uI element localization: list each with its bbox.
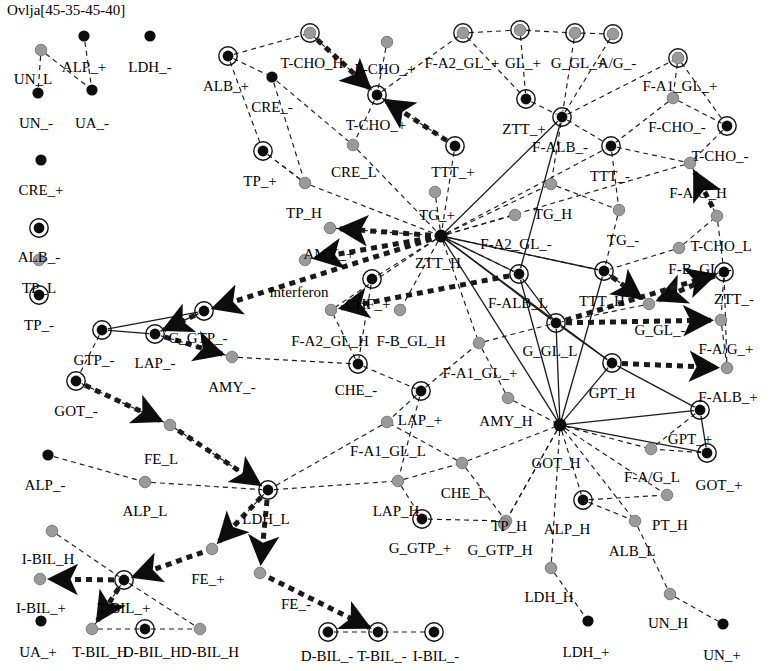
graph-node[interactable]	[425, 623, 443, 641]
graph-node[interactable]	[35, 44, 47, 56]
node-label: T-CHO_H	[281, 56, 344, 71]
edge-dashed	[54, 457, 139, 481]
graph-node[interactable]	[602, 137, 620, 155]
graph-node[interactable]	[645, 443, 657, 455]
graph-node[interactable]	[347, 139, 359, 151]
node-label: F-CHO_+	[355, 62, 416, 77]
node-label: FE_+	[191, 572, 224, 587]
graph-node[interactable]	[301, 24, 319, 42]
node-label: G_GTP_-	[168, 331, 227, 346]
node-label: LDH_L	[242, 512, 290, 527]
graph-node[interactable]	[553, 108, 571, 126]
graph-node[interactable]	[669, 49, 687, 67]
graph-node[interactable]	[604, 25, 622, 43]
graph-node[interactable]	[254, 567, 266, 579]
graph-node[interactable]	[629, 515, 641, 527]
graph-node[interactable]	[381, 36, 393, 48]
graph-node[interactable]	[46, 525, 58, 537]
node-label: I-BIL_+	[16, 601, 66, 616]
graph-node[interactable]	[219, 47, 237, 65]
graph-node[interactable]	[603, 354, 621, 372]
graph-node[interactable]	[67, 372, 85, 390]
edge-dashed	[589, 495, 661, 499]
graph-node[interactable]	[502, 392, 514, 404]
graph-node[interactable]	[194, 623, 206, 635]
graph-node[interactable]	[115, 571, 133, 589]
graph-node[interactable]	[164, 419, 176, 431]
node-label: I-BIL_H	[22, 552, 75, 567]
node-label: D-BIL_H	[181, 645, 239, 660]
graph-node[interactable]	[349, 355, 367, 373]
node-label: A/G_-	[598, 56, 636, 71]
graph-node[interactable]	[554, 419, 567, 432]
graph-node[interactable]	[32, 87, 43, 98]
graph-node[interactable]	[456, 457, 468, 469]
graph-node[interactable]	[613, 204, 625, 216]
graph-node[interactable]	[412, 382, 430, 400]
node-label: G_GTP_H	[467, 543, 532, 558]
graph-node[interactable]	[394, 304, 406, 316]
node-label: UN_-	[19, 116, 53, 131]
graph-node[interactable]	[509, 209, 521, 221]
graph-node[interactable]	[299, 177, 311, 189]
graph-node[interactable]	[673, 242, 685, 254]
graph-node[interactable]	[363, 270, 381, 288]
node-label: UN_+	[703, 648, 741, 663]
graph-node[interactable]	[473, 337, 485, 349]
graph-node[interactable]	[715, 314, 727, 326]
edge-dashed	[238, 357, 352, 363]
graph-node[interactable]	[139, 476, 151, 488]
node-label: AMY_+	[304, 247, 355, 262]
graph-node[interactable]	[34, 573, 46, 585]
graph-node[interactable]	[206, 543, 218, 555]
node-label: F-B_GL_-	[668, 262, 731, 277]
graph-node[interactable]	[510, 265, 528, 283]
graph-node[interactable]	[664, 588, 676, 600]
node-label: TP_L	[22, 281, 56, 296]
graph-node[interactable]	[392, 475, 404, 487]
graph-node[interactable]	[35, 154, 46, 165]
node-label: TP_H	[491, 519, 527, 534]
graph-node[interactable]	[86, 623, 98, 635]
node-label: F-CHO_-	[648, 120, 706, 135]
graph-node[interactable]	[78, 30, 89, 41]
graph-node[interactable]	[324, 222, 336, 234]
node-label: F-A/G_+	[698, 342, 753, 357]
graph-node[interactable]	[195, 302, 213, 320]
edge-dashed	[551, 431, 559, 562]
graph-node[interactable]	[711, 210, 723, 222]
graph-node[interactable]	[545, 562, 557, 574]
graph-node[interactable]	[717, 618, 728, 629]
graph-node[interactable]	[266, 71, 277, 82]
graph-node[interactable]	[325, 304, 337, 316]
graph-node[interactable]	[368, 86, 386, 104]
graph-node[interactable]	[446, 137, 464, 155]
graph-node[interactable]	[435, 230, 448, 243]
graph-node[interactable]	[86, 84, 97, 95]
graph-node[interactable]	[30, 219, 48, 237]
graph-node[interactable]	[144, 30, 155, 41]
graph-node[interactable]	[643, 298, 655, 310]
edge-dashed	[274, 481, 392, 489]
node-label: CRE_-	[251, 100, 293, 115]
graph-node[interactable]	[35, 615, 46, 626]
edge-dashed	[610, 250, 674, 269]
graph-node[interactable]	[718, 117, 736, 135]
graph-node[interactable]	[595, 262, 613, 280]
graph-node[interactable]	[254, 142, 272, 160]
edge-dashed	[404, 465, 456, 480]
graph-node[interactable]	[226, 351, 238, 363]
graph-node[interactable]	[661, 489, 673, 501]
edge-dashed	[509, 430, 557, 516]
edge-dashed	[151, 482, 262, 489]
graph-node[interactable]	[381, 416, 393, 428]
node-label: G_GTP_+	[389, 541, 452, 556]
graph-node[interactable]	[721, 362, 733, 374]
node-label: ALB_-	[18, 250, 61, 265]
graph-node[interactable]	[582, 615, 593, 626]
node-label: TTT_-	[590, 169, 630, 184]
graph-node[interactable]	[545, 178, 557, 190]
graph-node[interactable]	[42, 449, 53, 460]
graph-node[interactable]	[429, 186, 441, 198]
node-label: TTT_+	[431, 165, 474, 180]
